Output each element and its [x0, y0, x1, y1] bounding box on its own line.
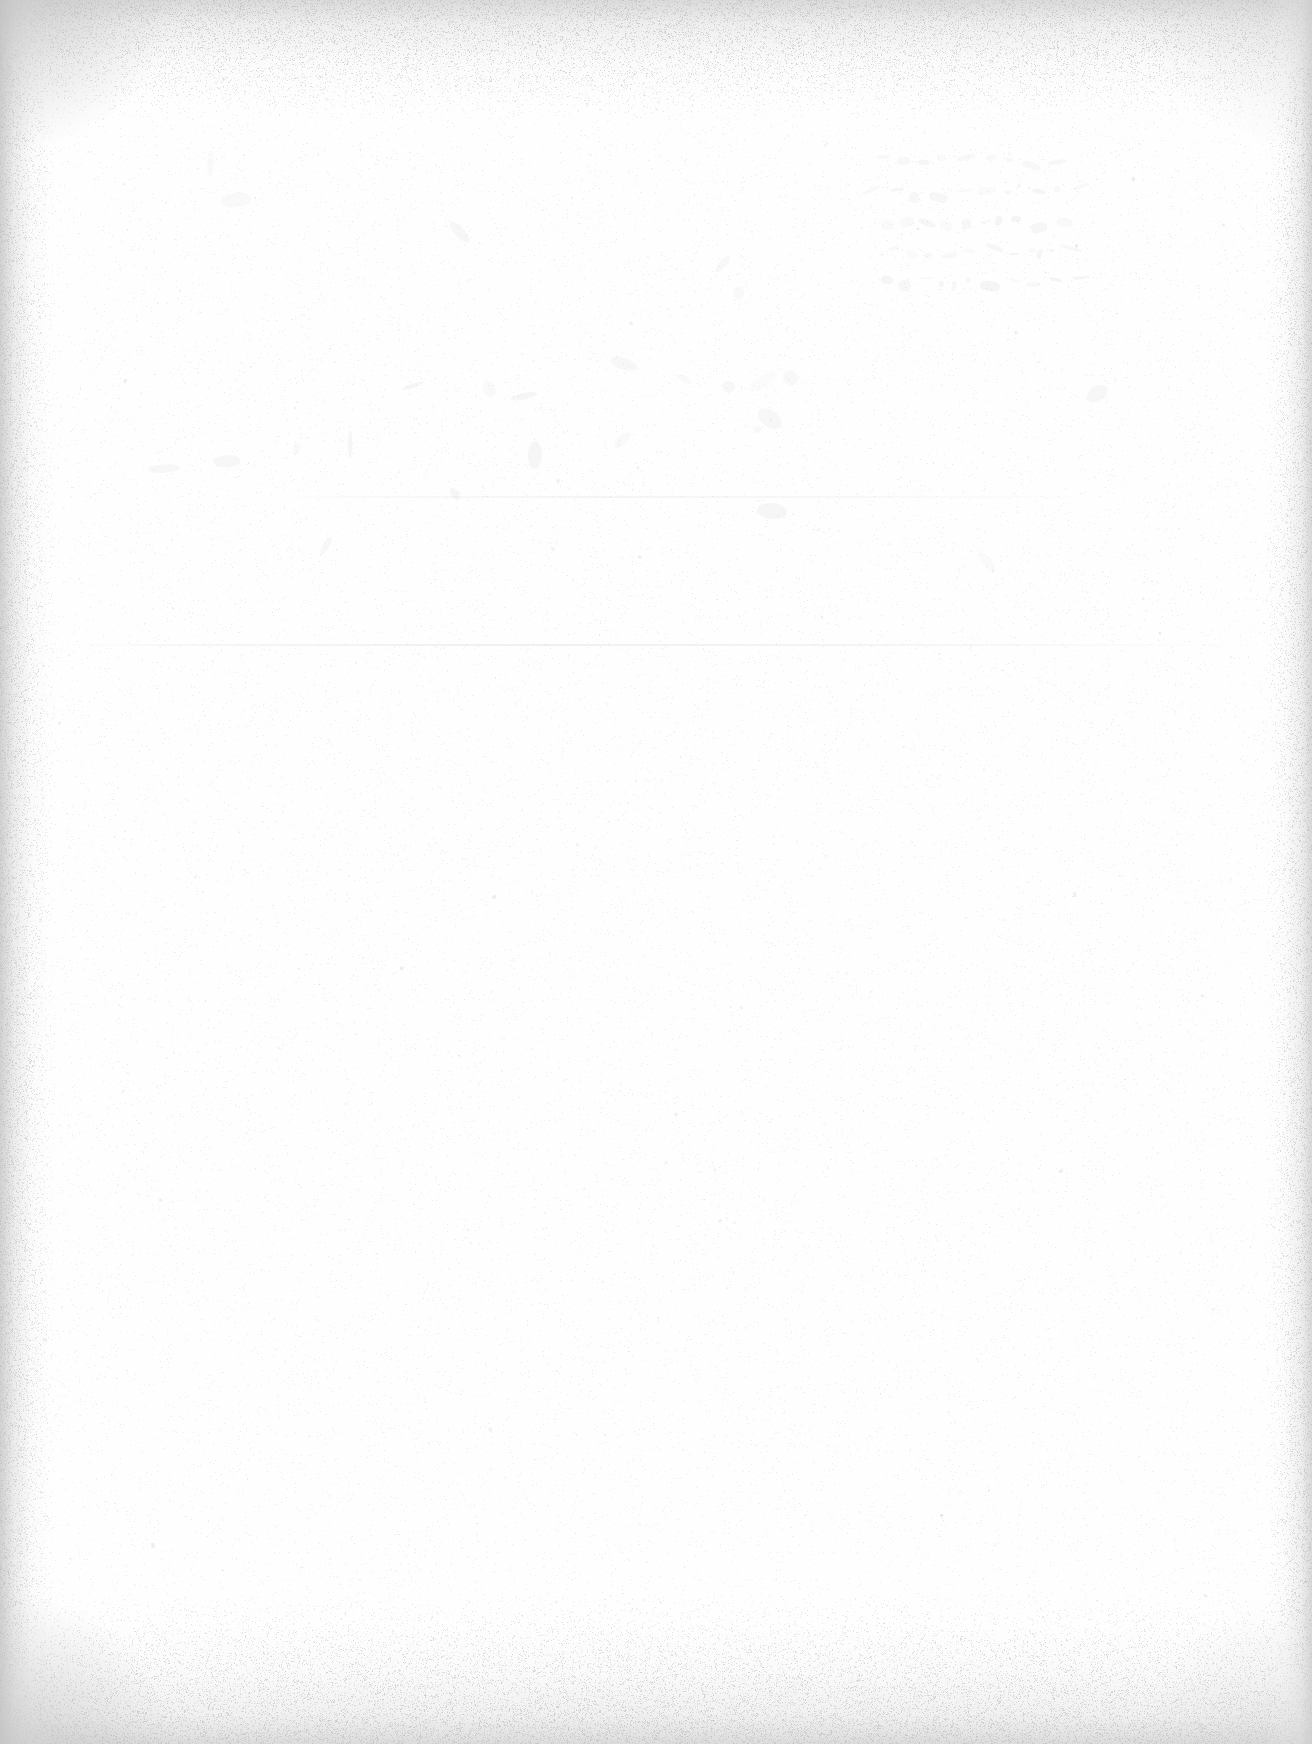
scanned-page [0, 0, 1312, 1744]
paper-background [0, 0, 1312, 1744]
